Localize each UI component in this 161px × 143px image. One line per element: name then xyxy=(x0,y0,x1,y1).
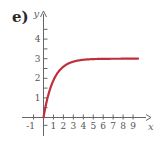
y-tick-label: 4 xyxy=(35,34,41,44)
x-tick-label: 6 xyxy=(100,121,106,131)
x-tick-label: 5 xyxy=(90,121,96,131)
y-tick-label: 1 xyxy=(35,93,41,103)
x-tick-label: 4 xyxy=(80,121,86,131)
x-tick-label: 1 xyxy=(51,121,57,131)
y-tick-label: 3 xyxy=(35,54,41,64)
x-axis-label: x xyxy=(148,121,154,132)
y-tick-label: 2 xyxy=(35,73,41,83)
x-tick-label: 2 xyxy=(61,121,67,131)
x-tick-label: 8 xyxy=(120,121,126,131)
chart: -11234567891234xy xyxy=(0,0,161,143)
y-axis-label: y xyxy=(33,8,40,19)
x-tick-label: 7 xyxy=(110,121,116,131)
x-tick-label: 3 xyxy=(70,121,76,131)
x-tick-label: 9 xyxy=(130,121,136,131)
x-tick-label: -1 xyxy=(26,121,35,131)
data-curve xyxy=(44,59,139,118)
